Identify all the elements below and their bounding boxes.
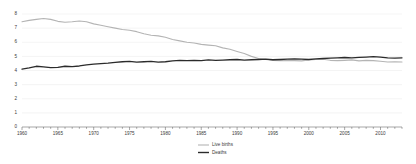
- y-tick-label: 7: [14, 25, 17, 30]
- y-tick-label: 2: [14, 96, 17, 101]
- legend-label: Deaths: [212, 150, 227, 155]
- x-tick-label: 2010: [375, 131, 386, 136]
- x-tick-label: 1995: [268, 131, 279, 136]
- gridlines: [22, 14, 402, 113]
- x-tick-label: 1980: [160, 131, 171, 136]
- series-line-deaths: [22, 57, 402, 69]
- x-tick-label: 1975: [124, 131, 135, 136]
- x-tick-label: 2000: [304, 131, 315, 136]
- y-tick-label: 4: [14, 68, 17, 73]
- y-tick-label: 3: [14, 82, 17, 87]
- y-tick-label: 6: [14, 39, 17, 44]
- chart-legend: Live birthsDeaths: [198, 142, 234, 155]
- y-tick-label: 1: [14, 110, 17, 115]
- series-line-live-births: [22, 19, 402, 63]
- x-tick-label: 1960: [17, 131, 28, 136]
- x-tick-label: 1970: [89, 131, 100, 136]
- legend-label: Live births: [212, 142, 234, 147]
- line-chart: 012345678 196019651970197519801985199019…: [0, 0, 416, 164]
- y-axis: 012345678: [14, 11, 17, 129]
- y-tick-label: 8: [14, 11, 17, 16]
- x-tick-label: 1965: [53, 131, 64, 136]
- x-axis: 1960196519701975198019851990199520002005…: [17, 127, 402, 136]
- series-lines: [22, 19, 402, 70]
- x-tick-label: 1985: [196, 131, 207, 136]
- y-tick-label: 5: [14, 54, 17, 59]
- y-tick-label: 0: [14, 124, 17, 129]
- chart-container: 012345678 196019651970197519801985199019…: [0, 0, 416, 164]
- x-tick-label: 2005: [340, 131, 351, 136]
- x-tick-label: 1990: [232, 131, 243, 136]
